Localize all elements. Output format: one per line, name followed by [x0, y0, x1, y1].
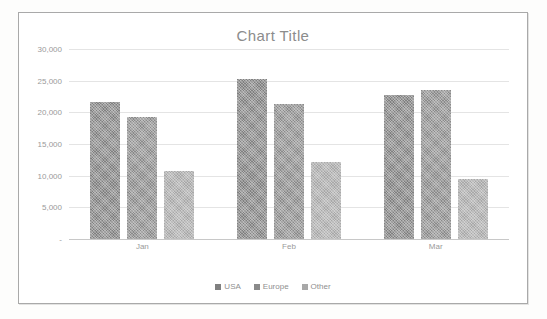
bar-group [362, 49, 509, 239]
gridline [69, 239, 509, 240]
y-axis-tick-label: 15,000 [38, 140, 62, 149]
x-axis-category-label: Feb [216, 242, 363, 251]
legend-item[interactable]: Europe [254, 282, 289, 291]
bar[interactable] [237, 79, 267, 239]
legend-swatch-icon [302, 284, 308, 290]
bar[interactable] [127, 117, 157, 239]
y-axis-tick-label: 20,000 [38, 108, 62, 117]
chart-container[interactable]: Chart Title 30,00025,00020,00015,00010,0… [18, 12, 528, 304]
legend-label: Europe [263, 282, 289, 291]
bar[interactable] [274, 104, 304, 239]
bar[interactable] [421, 90, 451, 239]
legend-label: Other [311, 282, 331, 291]
x-axis-category-labels: JanFebMar [69, 242, 509, 251]
bar[interactable] [311, 162, 341, 239]
screenshot-canvas: Chart Title 30,00025,00020,00015,00010,0… [0, 0, 547, 319]
y-axis-tick-label: - [59, 235, 62, 244]
legend-swatch-icon [254, 284, 260, 290]
y-axis-tick-label: 30,000 [38, 45, 62, 54]
bar[interactable] [384, 95, 414, 239]
y-axis-tick-label: 25,000 [38, 76, 62, 85]
y-axis-tick-label: 5,000 [42, 203, 62, 212]
chart-legend[interactable]: USAEuropeOther [19, 282, 527, 291]
legend-item[interactable]: USA [215, 282, 240, 291]
bar-group [69, 49, 216, 239]
bar[interactable] [90, 102, 120, 239]
legend-swatch-icon [215, 284, 221, 290]
legend-label: USA [224, 282, 240, 291]
plot-area: 30,00025,00020,00015,00010,0005,000- Jan… [69, 49, 509, 251]
bar[interactable] [458, 179, 488, 239]
chart-title: Chart Title [19, 27, 527, 44]
bar-groups [69, 49, 509, 239]
bar-group [216, 49, 363, 239]
legend-item[interactable]: Other [302, 282, 331, 291]
y-axis-tick-label: 10,000 [38, 171, 62, 180]
bar[interactable] [164, 171, 194, 239]
x-axis-category-label: Jan [69, 242, 216, 251]
x-axis-category-label: Mar [362, 242, 509, 251]
plot-inner: 30,00025,00020,00015,00010,0005,000- [69, 49, 509, 239]
